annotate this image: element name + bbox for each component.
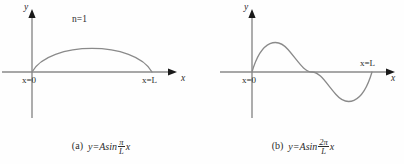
plot-svg-a (0, 0, 202, 128)
plot-area-a (0, 0, 202, 128)
caption-b: (b)y=Asin2πLx (202, 138, 404, 156)
caption-a: (a)y=AsinπLx (0, 138, 202, 156)
caption-fraction-a: πL (118, 138, 125, 156)
origin-label-a: x=0 (22, 75, 36, 85)
sine-curve-a (32, 48, 152, 72)
caption-fraction-b: 2πL (318, 138, 329, 156)
mode-label-a: n=1 (72, 14, 87, 24)
figure-panel-b: n=2 y x x=0 x=L (b)y=Asin2πLx (202, 0, 404, 164)
origin-label-b: x=0 (242, 75, 256, 85)
y-axis-arrowhead-b (248, 9, 255, 18)
caption-tag-a: (a) (72, 140, 83, 151)
caption-denominator-a: L (118, 147, 125, 156)
caption-tag-b: (b) (272, 140, 284, 151)
figure-panel-a: n=1 y x x=0 x=L (a)y=AsinπLx (0, 0, 202, 164)
figure-container: n=1 y x x=0 x=L (a)y=AsinπLx n=2 y x (0, 0, 404, 164)
y-axis-arrowhead-a (28, 9, 35, 18)
caption-prefix-a: y=Asin (88, 141, 117, 152)
x-axis-label-a: x (181, 73, 185, 83)
caption-suffix-a: x (126, 141, 130, 152)
end-label-b: x=L (360, 58, 375, 68)
caption-suffix-b: x (330, 141, 334, 152)
y-axis-label-a: y (24, 2, 28, 12)
x-axis-arrowhead-a (168, 68, 177, 75)
end-label-a: x=L (142, 75, 157, 85)
y-axis-label-b: y (244, 2, 248, 12)
caption-denominator-b: L (318, 147, 329, 156)
caption-expression-b: y=Asin2πLx (288, 138, 334, 156)
x-axis-label-b: x (391, 73, 395, 83)
caption-expression-a: y=AsinπLx (88, 138, 130, 156)
caption-prefix-b: y=Asin (288, 141, 317, 152)
